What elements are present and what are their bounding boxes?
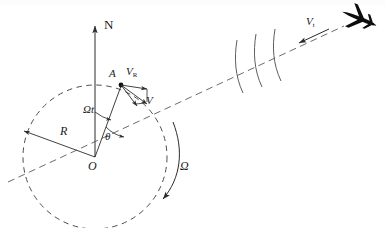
label-rotation: Ω	[180, 160, 189, 172]
label-angle-omega-t: Ωt	[83, 104, 94, 115]
vector-v-target	[299, 29, 329, 43]
label-v-target: Vt	[306, 16, 315, 27]
label-v-total: V	[146, 95, 153, 106]
wave-arc-1	[235, 40, 243, 93]
figure-canvas: N R O A VR V Ωt θ Ω Vt	[0, 0, 385, 228]
label-v-relative-sub: R	[133, 71, 138, 78]
wave-arc-2	[254, 34, 262, 87]
label-v-relative: VR	[126, 66, 137, 77]
line-of-sight-dashed	[8, 26, 344, 182]
wave-arc-3	[273, 29, 281, 81]
aircraft-icon	[338, 0, 382, 37]
label-angle-theta: θ	[105, 131, 110, 142]
label-v-relative-base: V	[126, 65, 133, 77]
label-v-target-base: V	[306, 15, 313, 27]
label-origin: O	[88, 160, 97, 172]
radius-to-point-a	[95, 86, 121, 157]
wave-front-arcs	[235, 29, 281, 93]
label-north: N	[104, 18, 113, 31]
vector-v-tangential	[121, 85, 137, 106]
label-radius: R	[60, 125, 67, 137]
vector-v-total	[121, 85, 147, 104]
label-v-target-sub: t	[313, 21, 315, 28]
diagram-svg	[0, 0, 385, 228]
rotation-arrow	[163, 122, 179, 199]
label-point-a: A	[109, 68, 116, 79]
